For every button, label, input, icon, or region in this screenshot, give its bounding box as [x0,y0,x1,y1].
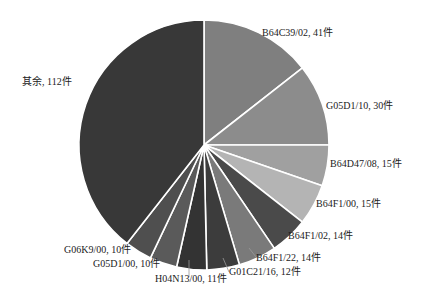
pie-chart: B64C39/02, 41件G05D1/10, 30件B64D47/08, 15… [0,0,422,303]
slice-label: B64F1/22, 14件 [256,252,321,263]
slice-label: H04N13/00, 11件 [155,273,227,284]
slice-label: B64D47/08, 15件 [330,158,402,169]
slice-label: B64F1/00, 15件 [316,198,381,209]
slice-label: G01C21/16, 12件 [229,266,301,277]
slice-label: B64F1/02, 14件 [288,230,353,241]
slice-label: G06K9/00, 10件 [64,244,131,255]
slice-label: B64C39/02, 41件 [262,27,333,38]
slice-label: 其余, 112件 [22,75,72,87]
slice-label: G05D1/10, 30件 [326,100,393,111]
slice-label: G05D1/00, 10件 [93,258,160,269]
